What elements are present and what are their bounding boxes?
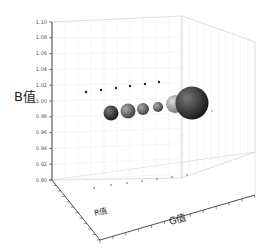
- r-axis-label: R值: [93, 205, 109, 218]
- svg-text:1.00: 1.00: [36, 98, 47, 104]
- back-wall: [52, 16, 255, 180]
- z-axis-ticks: 0.900.920.940.960.981.001.021.041.061.08…: [36, 19, 52, 183]
- svg-text:0.92: 0.92: [36, 161, 47, 167]
- svg-text:0.94: 0.94: [36, 145, 47, 151]
- g-axis-label: G值: [167, 211, 187, 227]
- svg-text:1.08: 1.08: [36, 34, 47, 40]
- svg-text:1.04: 1.04: [36, 66, 47, 72]
- svg-text:0.98: 0.98: [36, 113, 47, 119]
- svg-text:1.02: 1.02: [36, 82, 47, 88]
- z-axis-label: B值: [14, 86, 36, 105]
- svg-text:1.10: 1.10: [36, 19, 47, 25]
- svg-text:0.96: 0.96: [36, 129, 47, 135]
- svg-text:0.90: 0.90: [36, 177, 47, 183]
- bubble-chart-3d: 0.900.920.940.960.981.001.021.041.061.08…: [0, 0, 273, 249]
- svg-text:1.06: 1.06: [36, 50, 47, 56]
